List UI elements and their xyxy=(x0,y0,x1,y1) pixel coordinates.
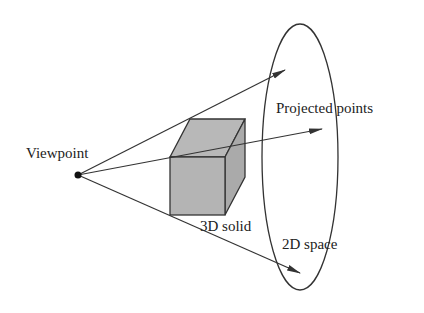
viewpoint-dot xyxy=(75,172,82,179)
projected-points-label: Projected points xyxy=(276,100,373,116)
projection-diagram: Viewpoint Projected points 3D solid 2D s… xyxy=(0,0,424,313)
viewpoint-label: Viewpoint xyxy=(26,145,89,161)
solid-label: 3D solid xyxy=(200,218,252,234)
cube-3d-solid xyxy=(170,119,245,215)
space-label: 2D space xyxy=(282,236,338,252)
